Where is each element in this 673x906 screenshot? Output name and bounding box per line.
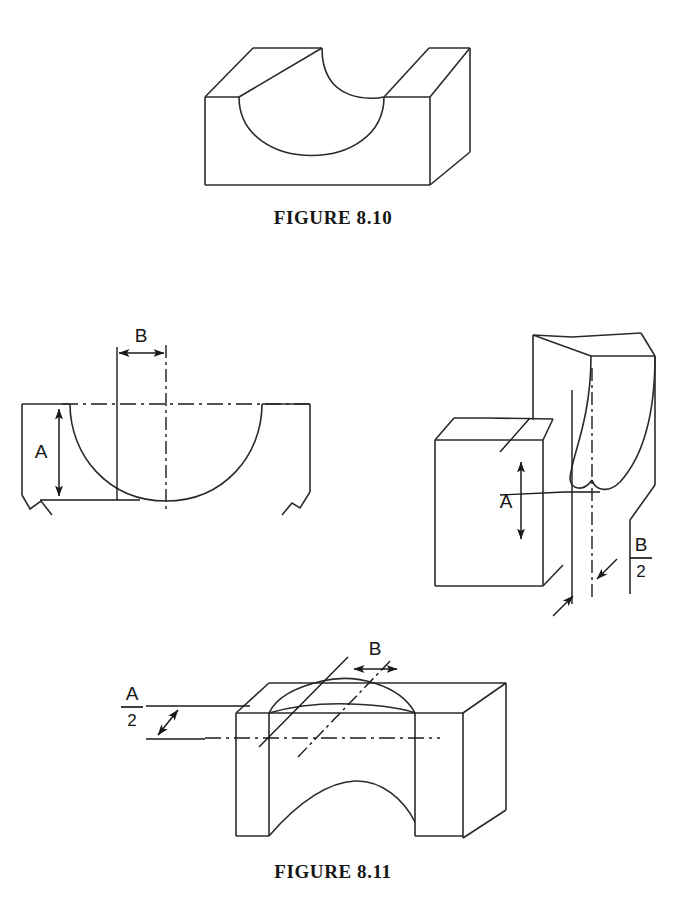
block-left-receding-edge: [205, 48, 253, 97]
iso-right-b-half-denominator: 2: [636, 562, 645, 581]
iso-bottom-front-convex-arc: [269, 781, 415, 836]
a-dimension-label: A: [35, 441, 48, 462]
front-view-left-break-line: [22, 495, 52, 515]
block-top-face-right-inner-edge: [384, 48, 429, 97]
iso-bottom-left-recede-top: [236, 683, 269, 713]
iso-bottom-top-convex-arc-inner: [269, 704, 415, 713]
iso-bottom-b-left-extension: [259, 657, 348, 747]
iso-right-groove-right-profile: [592, 356, 655, 489]
iso-bottom-right-bottom-recede: [463, 810, 506, 838]
figure-8-10-drawing: FIGURE 8.10: [205, 48, 470, 228]
block-top-face-left-inner-edge: [239, 48, 322, 97]
figure-8-11-front-view: B A: [22, 325, 310, 515]
iso-right-b-half-lower-arrow: [553, 596, 573, 616]
figure-8-11-caption: FIGURE 8.11: [274, 861, 391, 882]
iso-right-a-label: A: [500, 491, 513, 512]
iso-bottom-b-right-centerline: [298, 659, 392, 757]
iso-right-rear-bottom-receding: [630, 485, 655, 520]
iso-bottom-a-half-dimension-line: [158, 710, 178, 735]
iso-bottom-right-recede-top: [463, 683, 506, 713]
iso-right-front-block-top-back-edge: [488, 418, 553, 419]
iso-right-b-half-numerator: B: [635, 534, 648, 555]
figure-8-10-caption: FIGURE 8.10: [274, 207, 393, 228]
figure-8-11-iso-bottom-view: B A 2 FIGURE 8.11: [121, 638, 506, 882]
iso-right-front-block-bottom-recede: [543, 565, 563, 586]
groove-front-semicircle: [239, 97, 384, 156]
technical-drawing-canvas: FIGURE 8.10 B: [0, 0, 673, 906]
block-right-bottom-receding-edge: [430, 152, 470, 185]
b-dimension-label: B: [135, 325, 148, 346]
iso-bottom-a-half-denominator: 2: [127, 711, 136, 730]
iso-right-front-block-top-recede-left: [435, 418, 454, 440]
iso-right-front-block-top-recede-right: [543, 419, 553, 440]
figure-8-11-iso-right-view: A B 2: [435, 333, 655, 616]
iso-bottom-a-half-numerator: A: [126, 683, 139, 704]
iso-right-rear-top-back-edge: [572, 333, 641, 337]
groove-rear-arc: [322, 48, 384, 98]
figure-page: FIGURE 8.10 B: [0, 0, 673, 906]
front-view-right-break-line: [282, 492, 310, 515]
iso-right-a-upper-extension: [500, 418, 530, 452]
iso-right-groove-left-profile: [570, 356, 592, 488]
iso-bottom-b-label: B: [369, 638, 382, 659]
iso-right-rear-top-front-left: [533, 335, 591, 356]
iso-right-rear-top-right-edge: [641, 333, 655, 356]
block-right-receding-edge: [430, 48, 470, 97]
iso-right-a-lower-extension: [500, 492, 600, 495]
iso-right-b-half-upper-arrow: [597, 559, 617, 579]
